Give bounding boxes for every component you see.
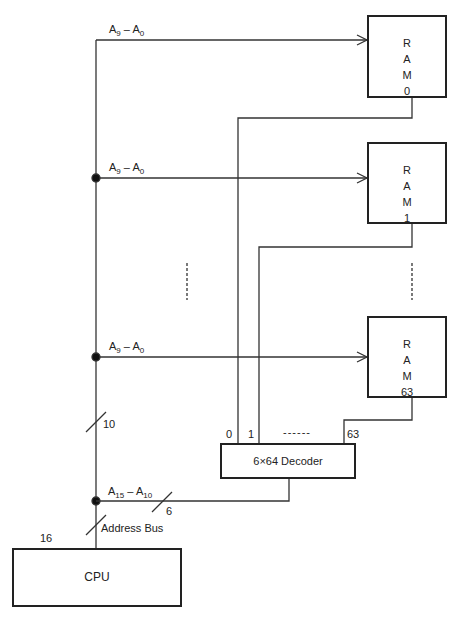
cpu-block: CPU — [12, 548, 182, 607]
ram-block-63: RAM63 — [367, 316, 447, 398]
decoder-out-63: 63 — [347, 428, 359, 440]
decoder-block: 6×64 Decoder — [220, 443, 356, 479]
bus-label-a15-a10: A15 – A10 — [108, 485, 152, 500]
bus-width-10: 10 — [103, 418, 115, 430]
decoder-out-dots: ------ — [283, 426, 311, 438]
ram-block-0: RAM0 — [367, 15, 447, 98]
bus-label-a9-a0: A9 – A0 — [109, 340, 144, 355]
decoder-out-0: 0 — [226, 428, 232, 440]
bus-width-16: 16 — [40, 532, 52, 544]
address-bus-label: Address Bus — [101, 522, 163, 534]
decoder-out-1: 1 — [248, 428, 254, 440]
bus-label-a9-a0: A9 – A0 — [109, 161, 144, 176]
bus-width-6: 6 — [166, 505, 172, 517]
memory-decoder-diagram: A9 – A0 A9 – A0 A9 – A0 A15 – A10 RAM0 R… — [0, 0, 464, 623]
bus-label-a9-a0: A9 – A0 — [109, 23, 144, 38]
ram-block-1: RAM1 — [367, 142, 447, 224]
